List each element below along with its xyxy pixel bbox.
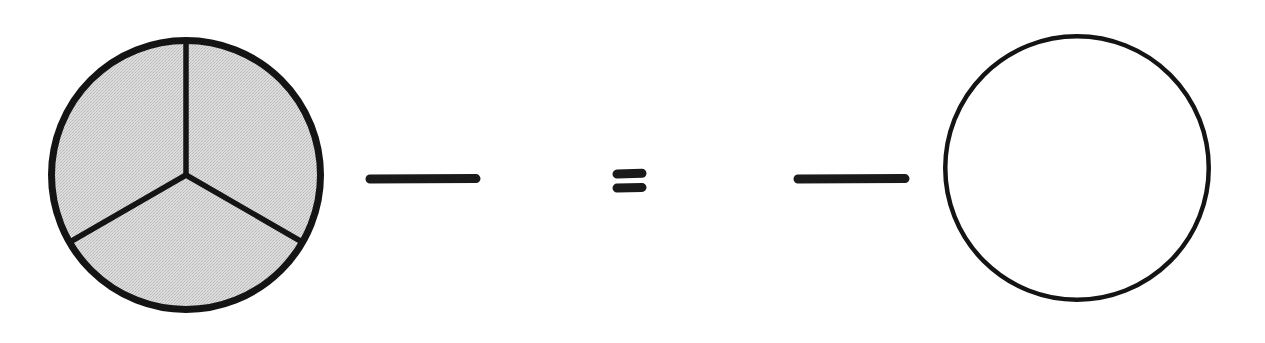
left-pie-chart — [52, 41, 321, 310]
figure-canvas: 1/3 − = − A circle divided into three eq… — [0, 0, 1265, 343]
diagram-svg — [0, 0, 1265, 343]
left-pie-slices — [52, 41, 321, 310]
equals-sign-bottom-bar — [617, 187, 642, 188]
equals-sign-top-bar — [617, 173, 642, 174]
equals-operator — [617, 173, 642, 188]
right-pie-chart — [945, 36, 1209, 300]
